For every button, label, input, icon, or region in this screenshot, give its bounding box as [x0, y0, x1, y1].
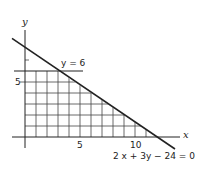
y-tick-label-5: 5: [15, 77, 21, 87]
x-tick-label-5: 5: [77, 140, 83, 150]
y-axis-label: y: [22, 17, 28, 27]
coordinate-plane: [0, 0, 200, 176]
x-tick-label-10: 10: [130, 140, 141, 150]
x-axis-label: x: [183, 130, 189, 140]
diagram: y x 5 5 10 y = 6 2 x + 3y − 24 = 0: [0, 0, 200, 176]
line-label-slanted: 2 x + 3y − 24 = 0: [113, 151, 195, 161]
slanted-line: [12, 38, 175, 149]
shaded-region-grid: [20, 60, 160, 140]
line-label-y6: y = 6: [61, 58, 85, 68]
